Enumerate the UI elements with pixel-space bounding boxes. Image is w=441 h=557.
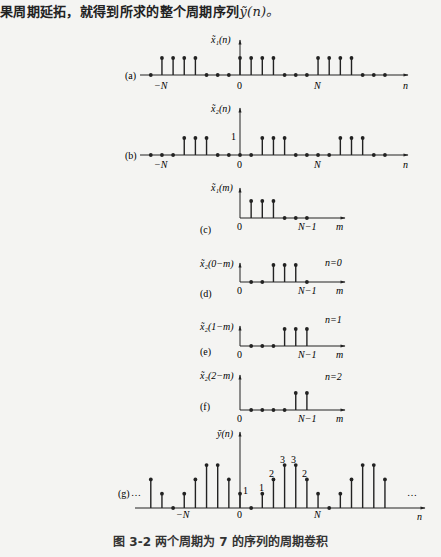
stem-marker <box>305 327 309 331</box>
panel-d-axis: m <box>336 285 343 296</box>
stem-marker <box>338 56 342 60</box>
panel-e-note: n=1 <box>325 314 342 325</box>
panel-g-ellipsis-right: … <box>407 487 417 498</box>
stem-marker <box>194 56 198 60</box>
panel-f-tick-end: N−1 <box>297 413 316 424</box>
stem-marker <box>350 56 354 60</box>
panel-g-value-label: 3 <box>291 454 296 465</box>
stem-marker <box>327 153 331 157</box>
stem-marker <box>294 216 298 220</box>
stem-marker <box>294 327 298 331</box>
stem-marker <box>283 263 287 267</box>
panel-c-axis: m <box>336 221 343 232</box>
panel-g-ellipsis-left: … <box>131 487 141 498</box>
panel-a-axis: n <box>403 80 408 91</box>
panel-d-ylabel: x̃₂(0−m) <box>199 258 234 270</box>
stem-marker <box>283 73 287 77</box>
stem-marker <box>327 506 331 510</box>
stem-marker <box>238 56 242 60</box>
stem-marker <box>272 344 276 348</box>
panel-b-tick-neg: −N <box>154 159 169 170</box>
stem-marker <box>316 153 320 157</box>
panel-b-label: (b) <box>125 150 137 162</box>
panel-f-note: n=2 <box>325 371 342 382</box>
stem-marker <box>249 199 253 203</box>
stem-marker <box>294 391 298 395</box>
stem-marker <box>249 408 253 412</box>
panel-g-value-label: 2 <box>269 468 274 479</box>
stem-marker <box>216 153 220 157</box>
stem-marker <box>272 199 276 203</box>
stem-marker <box>383 478 387 482</box>
panel-f-label: (f) <box>200 401 210 413</box>
stem-marker <box>350 136 354 140</box>
stem-marker <box>260 344 264 348</box>
stem-marker <box>182 136 186 140</box>
panel-f-axis: m <box>336 413 343 424</box>
stem-marker <box>149 153 153 157</box>
panel-g-value-label: 1 <box>259 482 264 493</box>
stem-marker <box>194 478 198 482</box>
stem-marker <box>372 463 376 467</box>
stem-marker <box>383 73 387 77</box>
stem-marker <box>249 506 253 510</box>
figure-caption: 图 3-2 两个周期为 7 的序列的周期卷积 <box>0 532 441 549</box>
panel-a-tick-pos: N <box>313 80 322 91</box>
stem-marker <box>350 478 354 482</box>
stem-marker <box>238 153 242 157</box>
stem-marker <box>272 263 276 267</box>
panel-e-ylabel: x̃₂(1−m) <box>199 321 234 333</box>
panel-d-label: (d) <box>200 288 212 300</box>
panel-b-tick-pos: N <box>313 159 322 170</box>
stem-marker <box>294 153 298 157</box>
panel-a-label: (a) <box>125 70 136 82</box>
stem-marker <box>294 73 298 77</box>
panel-g-tick-zero: 0 <box>237 509 242 520</box>
stem-marker <box>305 73 309 77</box>
panel-b-ytick: 1 <box>231 131 236 142</box>
stem-marker <box>272 56 276 60</box>
stem-marker <box>372 73 376 77</box>
stem-marker <box>149 478 153 482</box>
stem-marker <box>171 506 175 510</box>
panel-e-label: (e) <box>200 346 211 358</box>
stem-marker <box>294 263 298 267</box>
stem-marker <box>249 56 253 60</box>
stem-marker <box>249 344 253 348</box>
stem-marker <box>272 136 276 140</box>
panel-d-tick-end: N−1 <box>297 285 316 296</box>
panel-a-tick-neg: −N <box>154 80 169 91</box>
panel-f-tick-zero: 0 <box>237 413 242 424</box>
stem-marker <box>205 73 209 77</box>
stem-marker <box>260 56 264 60</box>
stem-marker <box>260 199 264 203</box>
stem-marker <box>227 73 231 77</box>
stem-marker <box>171 153 175 157</box>
stem-marker <box>338 492 342 496</box>
panel-b-ylabel: x̃₂(n) <box>210 103 231 115</box>
panel-c-label: (c) <box>200 224 211 236</box>
stem-marker <box>316 492 320 496</box>
stem-marker <box>272 408 276 412</box>
stem-marker <box>305 280 309 284</box>
panel-g-tick-pos: N <box>313 509 322 520</box>
panel-g-value-label: 3 <box>280 454 285 465</box>
stem-marker <box>216 463 220 467</box>
stem-marker <box>149 73 153 77</box>
panel-d-tick-zero: 0 <box>237 285 242 296</box>
panel-g-tick-neg: −N <box>176 509 191 520</box>
stem-marker <box>361 136 365 140</box>
panel-c-ylabel: x̃₁(m) <box>210 182 233 194</box>
stem-marker <box>182 56 186 60</box>
stem-marker <box>205 463 209 467</box>
stem-marker <box>383 153 387 157</box>
stem-marker <box>260 136 264 140</box>
panel-b-tick-zero: 0 <box>237 159 242 170</box>
stem-marker <box>249 280 253 284</box>
stem-marker <box>194 136 198 140</box>
stem-marker <box>361 73 365 77</box>
stem-marker <box>283 216 287 220</box>
stem-marker <box>260 280 264 284</box>
stem-marker <box>260 408 264 412</box>
stem-marker <box>316 56 320 60</box>
